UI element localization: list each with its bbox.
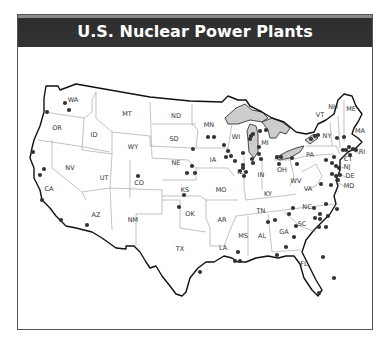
plant-marker-dot [40, 198, 44, 202]
state-borders [38, 92, 356, 256]
state-label-oh: OH [277, 166, 287, 174]
us-map: WAORCANVIDMTWYUTCOAZNMNDSDNEKSOKTXMNIAMO… [0, 0, 385, 347]
plant-marker-dot [241, 166, 245, 170]
plant-marker-dot [309, 137, 313, 141]
plant-marker-dot [177, 205, 181, 209]
plant-marker-dot [338, 173, 342, 177]
state-label-tx: TX [175, 245, 185, 253]
state-label-wi: WI [232, 133, 240, 141]
state-label-ga: GA [279, 228, 289, 236]
state-label-ny: NY [323, 132, 332, 140]
state-label-nd: ND [171, 112, 181, 120]
plant-marker-dot [257, 152, 261, 156]
state-label-la: LA [219, 244, 228, 252]
plant-marker-dot [136, 174, 140, 178]
plant-marker-dot [321, 255, 325, 259]
state-label-wv: WV [291, 177, 302, 185]
state-label-nh: NH [328, 103, 338, 111]
state-label-ms: MS [238, 232, 248, 240]
plant-marker-dot [233, 159, 237, 163]
plant-marker-dot [337, 166, 341, 170]
plant-marker-dot [244, 170, 248, 174]
state-label-ar: AR [218, 216, 227, 224]
plant-marker-dot [185, 171, 189, 175]
state-label-mn: MN [204, 121, 215, 129]
plant-marker-dot [335, 136, 339, 140]
state-label-ma: MA [355, 127, 366, 135]
plant-marker-dot [238, 169, 242, 173]
plant-marker-dot [266, 220, 270, 224]
state-label-wy: WY [128, 143, 138, 151]
state-label-al: AL [258, 232, 266, 240]
state-label-az: AZ [92, 211, 101, 219]
state-label-de: DE [345, 172, 354, 180]
plant-marker-dot [193, 171, 197, 175]
plant-marker-dot [318, 212, 322, 216]
plant-marker-dot [317, 225, 321, 229]
plant-marker-dot [42, 167, 46, 171]
plant-marker-dot [198, 270, 202, 274]
plant-marker-dot [291, 206, 295, 210]
state-label-sd: SD [169, 135, 178, 143]
state-label-pa: PA [306, 151, 315, 159]
state-labels: WAORCANVIDMTWYUTCOAZNMNDSDNEKSOKTXMNIAMO… [45, 96, 366, 268]
state-label-co: CO [134, 179, 144, 187]
plant-marker-dot [241, 151, 245, 155]
state-label-mi: MI [261, 139, 269, 147]
plant-marker-dot [279, 155, 283, 159]
plant-marker-dot [85, 223, 89, 227]
plant-marker-dot [206, 135, 210, 139]
plant-marker-dot [329, 183, 333, 187]
state-label-nj: NJ [344, 163, 351, 171]
plant-marker-dot [251, 161, 255, 165]
plant-marker-dot [292, 235, 296, 239]
state-label-ca: CA [45, 185, 55, 193]
plant-marker-dot [224, 155, 228, 159]
state-label-nm: NM [128, 216, 138, 224]
state-label-mt: MT [122, 110, 132, 118]
plant-marker-dot [354, 148, 358, 152]
plant-marker-dot [313, 216, 317, 220]
plant-marker-dot [316, 133, 320, 137]
great-lakes [225, 104, 318, 160]
plant-marker-dot [273, 218, 277, 222]
plant-marker-dot [275, 253, 279, 257]
plant-marker-dot [324, 202, 328, 206]
state-label-tn: TN [256, 207, 266, 215]
plant-marker-dot [259, 157, 263, 161]
plant-marker-dot [212, 135, 216, 139]
plant-marker-dot [277, 162, 281, 166]
plant-marker-dot [336, 178, 340, 182]
state-label-ri: RI [359, 148, 366, 156]
plant-marker-dot [190, 164, 194, 168]
plant-marker-dot [326, 214, 330, 218]
plant-marker-dot [334, 174, 338, 178]
state-label-me: ME [346, 105, 356, 113]
plant-marker-dot [324, 225, 328, 229]
plant-marker-dot [63, 101, 67, 105]
state-label-ia: IA [210, 156, 217, 164]
state-label-va: VA [304, 185, 313, 193]
plant-marker-dot [258, 129, 262, 133]
state-label-ne: NE [172, 159, 181, 167]
plant-marker-dot [242, 174, 246, 178]
plant-marker-dot [332, 155, 336, 159]
plant-marker-dot [229, 154, 233, 158]
plant-marker-dot [31, 150, 35, 154]
plant-marker-dot [250, 157, 254, 161]
plant-marker-dot [257, 145, 261, 149]
state-label-fl: FL [300, 260, 308, 268]
plant-marker-dot [294, 224, 298, 228]
plant-marker-dot [226, 149, 230, 153]
state-label-ky: KY [264, 190, 272, 198]
plant-marker-dot [222, 143, 226, 147]
state-label-ks: KS [181, 186, 189, 194]
plant-marker-dot [251, 132, 255, 136]
plant-marker-dot [191, 147, 195, 151]
plant-marker-dot [284, 245, 288, 249]
plant-marker-dot [342, 135, 346, 139]
state-label-wa: WA [68, 96, 79, 104]
plant-marker-dot [335, 207, 339, 211]
plant-marker-dot [347, 145, 351, 149]
plant-marker-dot [287, 212, 291, 216]
